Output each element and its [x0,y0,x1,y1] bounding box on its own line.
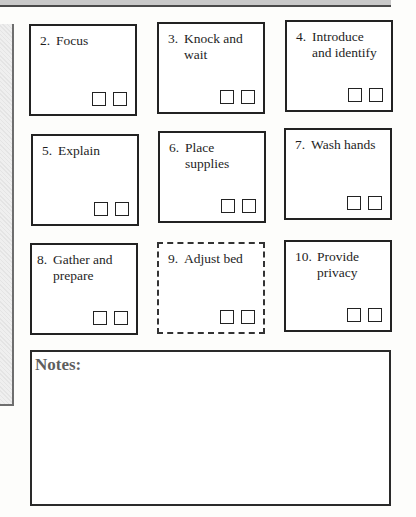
step-box-9: 9. Adjust bed [157,242,265,334]
step-text: Gather and prepare [53,252,130,284]
step-box-8: 8. Gather and prepare [30,243,138,335]
checkbox-group [94,202,129,216]
step-label: 3. Knock and wait [168,31,257,63]
step-text: Adjust bed [184,251,257,267]
checkbox-1[interactable] [348,88,362,102]
checkbox-2[interactable] [241,90,255,104]
checkbox-2[interactable] [368,196,382,210]
checkbox-group [220,310,255,324]
step-label: 8. Gather and prepare [37,252,130,284]
step-label: 9. Adjust bed [168,251,257,267]
step-label: 5. Explain [42,143,131,159]
header-bar [0,0,391,7]
notes-area[interactable]: Notes: [30,350,391,506]
step-number: 10. [295,249,317,281]
step-label: 4. Introduce and identify [296,29,385,61]
checkbox-2[interactable] [241,310,255,324]
step-box-5: 5. Explain [31,134,139,226]
step-number: 2. [40,33,56,49]
checkbox-2[interactable] [369,88,383,102]
checkbox-1[interactable] [220,310,234,324]
checkbox-group [347,308,382,322]
checkbox-1[interactable] [347,196,361,210]
step-number: 4. [296,29,312,61]
step-number: 8. [37,252,53,284]
step-box-4: 4. Introduce and identify [285,20,393,112]
step-number: 5. [42,143,58,159]
step-text: Focus [56,33,129,49]
checkbox-1[interactable] [92,92,106,106]
step-label: 6. Place supplies [169,140,258,172]
step-box-10: 10. Provide privacy [284,240,392,332]
step-text: Place supplies [185,140,258,172]
step-text: Introduce and identify [312,29,385,61]
step-label: 2. Focus [40,33,129,49]
checkbox-group [92,92,127,106]
checkbox-group [347,196,382,210]
step-text: Wash hands [311,137,384,153]
step-text: Explain [58,143,131,159]
step-box-2: 2. Focus [29,24,137,116]
checkbox-group [221,199,256,213]
step-box-6: 6. Place supplies [158,131,266,223]
step-label: 7. Wash hands [295,137,384,153]
side-panel [0,24,14,406]
checkbox-1[interactable] [93,311,107,325]
checkbox-1[interactable] [94,202,108,216]
step-number: 6. [169,140,185,172]
checkbox-2[interactable] [114,311,128,325]
checkbox-1[interactable] [221,199,235,213]
checkbox-1[interactable] [220,90,234,104]
checkbox-group [220,90,255,104]
notes-title: Notes: [35,355,81,375]
step-number: 7. [295,137,311,153]
checkbox-2[interactable] [113,92,127,106]
step-text: Provide privacy [317,249,384,281]
step-number: 9. [168,251,184,267]
checkbox-group [93,311,128,325]
step-number: 3. [168,31,184,63]
step-box-3: 3. Knock and wait [157,22,265,114]
checkbox-2[interactable] [368,308,382,322]
step-text: Knock and wait [184,31,257,63]
checkbox-2[interactable] [242,199,256,213]
checkbox-2[interactable] [115,202,129,216]
checkbox-1[interactable] [347,308,361,322]
checkbox-group [348,88,383,102]
step-box-7: 7. Wash hands [284,128,392,220]
step-label: 10. Provide privacy [295,249,384,281]
